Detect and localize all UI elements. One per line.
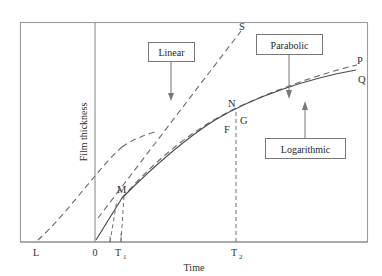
oxidation-kinetics-figure: Linear Parabolic Logarithmic S P Q M N F… (0, 0, 382, 276)
point-label-n: N (228, 98, 236, 109)
x-tick-label-zero: 0 (93, 247, 98, 258)
x-tick-label-t2-sub: 2 (239, 253, 243, 261)
x-tick-label-l: L (33, 247, 39, 258)
y-axis-title: Film thickness (78, 103, 89, 162)
point-label-m: M (117, 184, 127, 195)
linear-callout-label: Linear (158, 47, 185, 58)
initial-linear-segment (96, 198, 122, 240)
dropline-m-left (110, 200, 117, 242)
parabolic-curve (122, 65, 357, 198)
linear-callout-arrow (168, 93, 174, 101)
logarithmic-callout-label: Logarithmic (281, 144, 331, 155)
logarithmic-extension-curve-tail (122, 131, 158, 147)
x-axis-title: Time (184, 262, 205, 273)
chart-svg: Linear Parabolic Logarithmic S P Q M N F… (0, 0, 382, 276)
point-label-f: F (224, 124, 230, 135)
point-label-s: S (239, 21, 245, 32)
x-tick-label-t2-base: T (231, 247, 237, 258)
logarithmic-callout-arrow (302, 101, 308, 110)
parabolic-callout-label: Parabolic (271, 40, 309, 51)
parabolic-callout-arrow (286, 90, 292, 99)
point-label-q: Q (358, 74, 366, 85)
x-tick-label-t1-base: T (115, 247, 121, 258)
point-label-g: G (240, 115, 248, 126)
x-tick-label-t1-sub: 1 (123, 253, 127, 261)
point-label-p: P (357, 55, 363, 66)
logarithmic-curve (122, 70, 356, 198)
x-tick-label-t1: T 1 (115, 247, 127, 261)
x-tick-label-t2: T 2 (231, 247, 243, 261)
